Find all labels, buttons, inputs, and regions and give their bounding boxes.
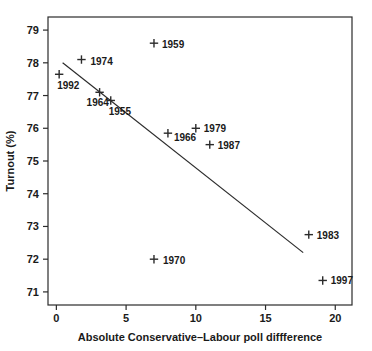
data-point-label: 1992 — [57, 80, 80, 91]
data-point-label: 1987 — [218, 140, 241, 151]
x-tick-label: 20 — [329, 312, 341, 324]
x-tick-label: 15 — [259, 312, 271, 324]
data-point: 1974 — [77, 55, 113, 66]
turnout-vs-poll-difference-chart: 05101520 717273747576777879 199219741964… — [0, 0, 372, 351]
data-point-label: 1997 — [331, 275, 354, 286]
x-tick-label: 5 — [123, 312, 129, 324]
y-axis-title: Turnout (%) — [4, 130, 16, 191]
data-point: 1959 — [150, 39, 185, 50]
data-point: 1979 — [192, 123, 227, 134]
data-point-label: 1983 — [317, 230, 340, 241]
x-tick-label: 10 — [190, 312, 202, 324]
regression-line — [63, 63, 304, 253]
data-point: 1966 — [164, 129, 197, 143]
y-tick-label: 74 — [27, 188, 40, 200]
y-tick-label: 76 — [27, 122, 39, 134]
y-tick-label: 77 — [27, 90, 39, 102]
y-tick-label: 71 — [27, 286, 39, 298]
x-tick-label: 0 — [53, 312, 59, 324]
x-axis-ticks: 05101520 — [53, 305, 341, 324]
data-point-label: 1966 — [174, 132, 197, 143]
data-point-label: 1964 — [87, 97, 110, 108]
data-point: 1987 — [206, 140, 241, 151]
data-point: 1955 — [107, 96, 132, 117]
y-tick-label: 73 — [27, 220, 39, 232]
x-axis-title: Absolute Conservative–Labour poll difffe… — [78, 331, 323, 343]
y-axis-ticks: 717273747576777879 — [27, 24, 48, 298]
data-point-label: 1970 — [163, 255, 186, 266]
data-point-label: 1974 — [90, 56, 113, 67]
y-tick-label: 78 — [27, 57, 39, 69]
data-point-label: 1979 — [204, 123, 227, 134]
data-points: 1992197419641955195919701966197919871983… — [55, 39, 353, 286]
y-tick-label: 79 — [27, 24, 39, 36]
scatter-plot-figure: 05101520 717273747576777879 199219741964… — [0, 0, 372, 351]
y-tick-label: 75 — [27, 155, 39, 167]
data-point: 1997 — [319, 275, 354, 286]
y-tick-label: 72 — [27, 253, 39, 265]
data-point-label: 1955 — [109, 106, 132, 117]
data-point: 1970 — [150, 255, 186, 266]
data-point: 1983 — [305, 230, 340, 241]
data-point-label: 1959 — [162, 39, 185, 50]
